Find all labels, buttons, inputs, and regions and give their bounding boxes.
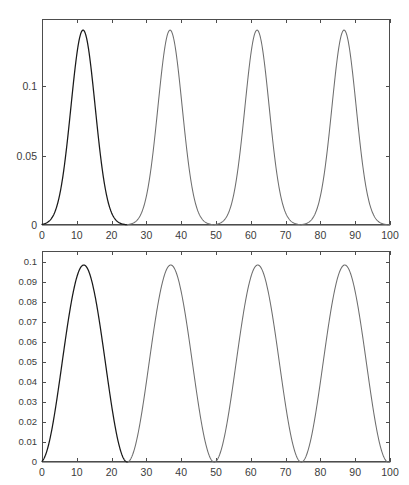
- chart-panel-bottom: 010203040506070809010000.010.020.030.040…: [0, 243, 409, 485]
- y-tick-label: 0.07: [2, 317, 37, 327]
- curve-pulse-4: [301, 30, 390, 225]
- y-tick-label: 0: [2, 457, 37, 467]
- y-tick-label: 0.03: [2, 397, 37, 407]
- y-tick-label: 0.02: [2, 417, 37, 427]
- figure-canvas: 010203040506070809010000.050.1 010203040…: [0, 0, 409, 485]
- curve-pulse-1: [42, 30, 127, 225]
- x-tick-label: 100: [370, 467, 409, 478]
- y-tick-label: 0.09: [2, 277, 37, 287]
- plot-area-top: [0, 0, 409, 243]
- chart-panel-top: 010203040506070809010000.050.1: [0, 0, 409, 243]
- curve-hump-1: [42, 265, 128, 462]
- curve-hump-3: [215, 265, 302, 462]
- y-tick-label: 0.1: [2, 81, 37, 92]
- curve-hump-2: [128, 265, 215, 462]
- curve-pulse-3: [214, 30, 301, 225]
- x-tick-label: 100: [370, 230, 409, 241]
- y-tick-label: 0.04: [2, 377, 37, 387]
- y-tick-label: 0.08: [2, 297, 37, 307]
- y-tick-label: 0: [2, 220, 37, 231]
- y-tick-label: 0.06: [2, 337, 37, 347]
- plot-area-bottom: [0, 243, 409, 485]
- y-tick-label: 0.05: [2, 357, 37, 367]
- curve-pulse-2: [127, 30, 214, 225]
- y-tick-label: 0.01: [2, 437, 37, 447]
- curve-hump-4: [302, 265, 390, 462]
- y-tick-label: 0.1: [2, 257, 37, 267]
- y-tick-label: 0.05: [2, 151, 37, 162]
